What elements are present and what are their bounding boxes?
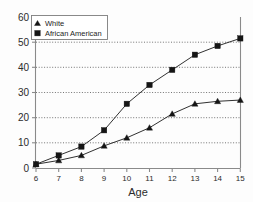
y-tick-labels: 60 50 40 30 20 10 0 bbox=[18, 12, 30, 174]
square-marker-icon bbox=[101, 128, 106, 133]
triangle-marker-icon bbox=[146, 125, 152, 131]
xtick-label-11: 11 bbox=[145, 174, 154, 183]
gridlines bbox=[36, 42, 240, 143]
ytick-label-30: 30 bbox=[18, 87, 30, 98]
xtick-label-15: 15 bbox=[236, 174, 245, 183]
square-marker-icon bbox=[238, 36, 243, 41]
legend: White African American bbox=[32, 16, 108, 40]
x-axis-title: Age bbox=[128, 186, 148, 198]
square-marker-icon bbox=[170, 67, 175, 72]
ytick-label-20: 20 bbox=[18, 112, 30, 123]
series-line bbox=[36, 38, 240, 164]
series-african-american bbox=[33, 36, 243, 167]
xtick-label-14: 14 bbox=[213, 174, 222, 183]
xtick-label-12: 12 bbox=[168, 174, 177, 183]
triangle-marker-icon bbox=[78, 152, 84, 158]
square-marker-icon bbox=[33, 162, 38, 167]
ytick-label-50: 50 bbox=[18, 37, 30, 48]
ytick-label-0: 0 bbox=[23, 163, 29, 174]
xtick-label-10: 10 bbox=[122, 174, 131, 183]
xtick-label-13: 13 bbox=[190, 174, 199, 183]
square-marker-icon bbox=[192, 52, 197, 57]
series-white bbox=[33, 97, 244, 167]
square-marker-icon bbox=[35, 31, 40, 36]
square-marker-icon bbox=[147, 82, 152, 87]
xtick-label-9: 9 bbox=[102, 174, 107, 183]
series-line bbox=[36, 100, 240, 164]
xtick-label-7: 7 bbox=[56, 174, 61, 183]
legend-label-white: White bbox=[45, 19, 64, 28]
xtick-label-8: 8 bbox=[79, 174, 84, 183]
data-series-layer bbox=[33, 36, 244, 167]
square-marker-icon bbox=[124, 101, 129, 106]
triangle-marker-icon bbox=[169, 111, 175, 117]
square-marker-icon bbox=[215, 43, 220, 48]
ytick-label-60: 60 bbox=[18, 12, 30, 23]
ytick-label-10: 10 bbox=[18, 137, 30, 148]
legend-label-african-american: African American bbox=[45, 29, 102, 38]
line-chart-figure: 60 50 40 30 20 10 0 6 7 8 9 10 bbox=[0, 0, 253, 202]
square-marker-icon bbox=[56, 153, 61, 158]
ytick-label-40: 40 bbox=[18, 62, 30, 73]
xtick-label-6: 6 bbox=[34, 174, 39, 183]
triangle-marker-icon bbox=[124, 135, 130, 141]
chart-canvas: 60 50 40 30 20 10 0 6 7 8 9 10 bbox=[0, 0, 253, 202]
x-tick-labels: 6 7 8 9 10 11 12 13 14 15 bbox=[34, 174, 246, 183]
square-marker-icon bbox=[79, 144, 84, 149]
triangle-marker-icon bbox=[237, 97, 243, 103]
